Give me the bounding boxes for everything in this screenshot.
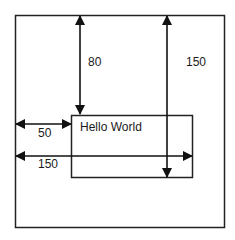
- width-label: 150: [38, 158, 58, 170]
- top-offset-label: 80: [88, 56, 101, 68]
- left-offset-label: 50: [38, 127, 51, 139]
- height-label: 150: [186, 56, 206, 68]
- hello-world-text: Hello World: [80, 121, 142, 133]
